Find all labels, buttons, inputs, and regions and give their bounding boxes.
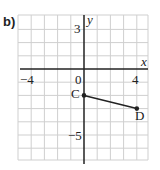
x-axis-label: x: [141, 54, 147, 70]
tick-label-4: 4: [132, 72, 139, 88]
tick-label-neg5: −5: [68, 128, 82, 144]
graph-figure: b): [0, 0, 160, 170]
point-c-label: C: [71, 86, 80, 102]
y-axis-label: y: [87, 12, 93, 28]
tick-label-3: 3: [74, 21, 81, 37]
point-d-label: D: [135, 108, 144, 124]
tick-label-neg4: −4: [20, 72, 34, 88]
grid-lines: [18, 15, 148, 160]
point-c-marker: [82, 93, 87, 98]
